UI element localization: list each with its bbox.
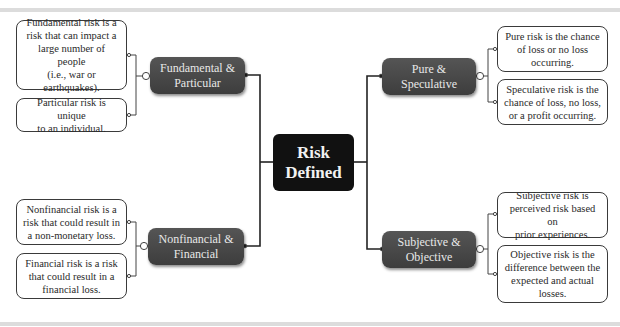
branch-label: Fundamental & Particular xyxy=(160,61,235,91)
central-topic-label: Risk Defined xyxy=(285,143,342,183)
leaf-text: Pure risk is the chance of loss or no lo… xyxy=(505,30,599,69)
branch-label: Pure & Speculative xyxy=(401,62,457,92)
branch-label: Nonfinancial & Financial xyxy=(159,232,234,262)
leaf-objective-risk[interactable]: Objective risk is the difference between… xyxy=(497,245,608,303)
leaf-financial-risk[interactable]: Financial risk is a risk that could resu… xyxy=(16,253,127,299)
branch-subjective-objective[interactable]: Subjective & Objective xyxy=(382,231,476,268)
leaf-text: Subjective risk is perceived risk based … xyxy=(504,189,601,241)
leaf-text: Objective risk is the difference between… xyxy=(505,248,600,300)
branch-fundamental-particular[interactable]: Fundamental & Particular xyxy=(150,57,245,94)
leaf-text: Nonfinancial risk is a risk that could r… xyxy=(23,203,120,242)
leaf-particular-risk[interactable]: Particular risk is unique to an individu… xyxy=(16,98,127,132)
branch-nonfinancial-financial[interactable]: Nonfinancial & Financial xyxy=(148,228,244,265)
leaf-subjective-risk[interactable]: Subjective risk is perceived risk based … xyxy=(497,192,608,238)
leaf-speculative-risk[interactable]: Speculative risk is the chance of loss, … xyxy=(497,79,608,125)
branch-label: Subjective & Objective xyxy=(398,235,461,265)
leaf-text: Financial risk is a risk that could resu… xyxy=(25,257,118,296)
leaf-text: Particular risk is unique to an individu… xyxy=(23,96,120,135)
leaf-fundamental-risk[interactable]: Fundamental risk is a risk that can impa… xyxy=(16,20,127,90)
leaf-text: Speculative risk is the chance of loss, … xyxy=(504,83,601,122)
leaf-pure-risk[interactable]: Pure risk is the chance of loss or no lo… xyxy=(497,26,608,72)
leaf-text: Fundamental risk is a risk that can impa… xyxy=(23,16,120,94)
branch-pure-speculative[interactable]: Pure & Speculative xyxy=(382,58,476,95)
leaf-nonfinancial-risk[interactable]: Nonfinancial risk is a risk that could r… xyxy=(16,199,127,245)
central-topic-node[interactable]: Risk Defined xyxy=(273,134,354,191)
